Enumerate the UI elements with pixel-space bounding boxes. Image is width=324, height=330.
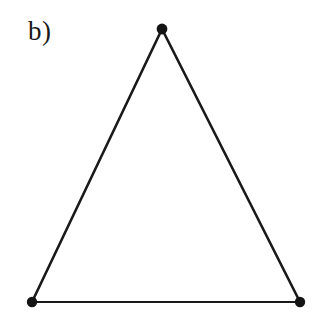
triangle-vertex-bottom-left bbox=[27, 297, 37, 307]
triangle-vertex-apex bbox=[157, 24, 168, 35]
triangle-vertex-bottom-right bbox=[295, 297, 305, 307]
triangle-edge-left bbox=[32, 29, 162, 302]
triangle-edge-right bbox=[162, 29, 300, 302]
triangle-diagram bbox=[0, 0, 324, 330]
figure-panel: b) bbox=[0, 0, 324, 330]
